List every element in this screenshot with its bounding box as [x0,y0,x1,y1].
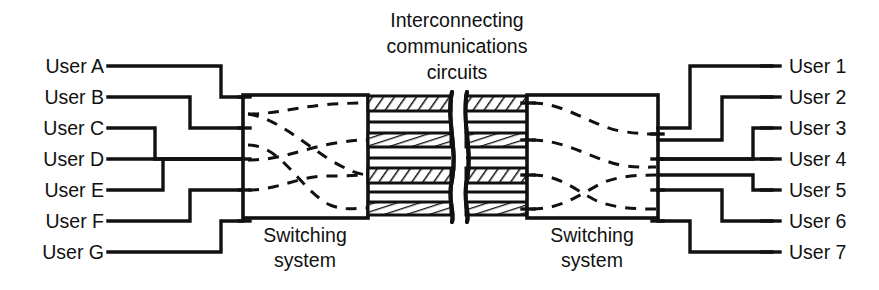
figure-title-line-3: circuits [427,62,488,83]
right-user-label-2: User 2 [789,87,846,107]
trunk-bar-1-left [368,96,451,111]
left-switch-caption-line-1: Switching [263,224,346,246]
left-user-label-d: User D [43,149,104,169]
right-switch-caption-line-1: Switching [550,224,633,246]
trunk-bar-1-right [466,96,527,111]
left-user-label-b: User B [44,87,104,107]
left-user-label-e: User E [44,180,104,200]
trunk-bar-2-right [466,133,527,147]
trunk-bar-2-left [368,133,451,147]
right-user-label-7: User 7 [789,242,846,262]
right-user-label-6: User 6 [789,211,846,231]
right-user-label-5: User 5 [789,180,846,200]
left-switch-caption-line-2: system [274,249,336,271]
figure-title-line-1: Interconnecting [390,10,523,31]
diagram-canvas: Interconnecting communications circuits … [0,0,879,290]
right-user-label-3: User 3 [789,118,846,138]
trunk-bar-3-left [368,168,451,183]
trunk-bar-4-left [368,202,451,215]
right-switch-caption-line-2: system [561,249,623,271]
left-user-label-c: User C [43,118,104,138]
left-user-label-f: User F [46,211,105,231]
figure-title-line-2: communications [387,36,528,57]
right-user-label-1: User 1 [789,56,846,76]
left-switch-box [243,95,368,218]
left-user-label-g: User G [42,242,104,262]
trunk-bar-4-right [466,202,527,215]
trunk-bar-3-right [466,168,527,183]
right-user-label-4: User 4 [789,149,846,169]
break-gap [456,92,464,222]
left-user-label-a: User A [45,56,104,76]
